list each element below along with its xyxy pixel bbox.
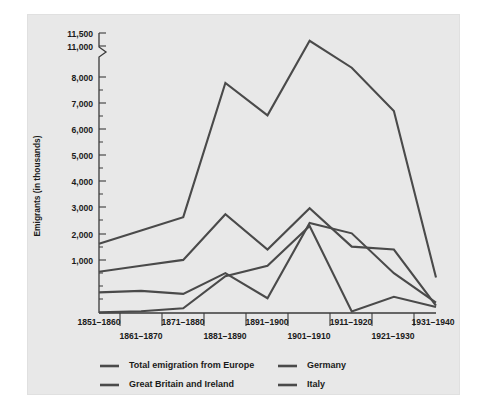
series-line-total-emigration-from-europe <box>99 41 436 278</box>
y-tick-label: 11,500 <box>67 29 93 39</box>
series-line-germany <box>99 223 436 303</box>
x-tick-label: 1851–1860 <box>77 317 120 327</box>
y-tick-label: 1,000 <box>71 256 93 266</box>
emigration-line-chart: Emigrants (in thousands) 11,500 11,000 8… <box>27 14 460 395</box>
chart-panel: Emigrants (in thousands) 11,500 11,000 8… <box>27 14 460 395</box>
y-axis-tick-labels: 11,500 11,000 8,000 7,000 6,000 5,000 4,… <box>67 29 93 266</box>
chart-legend: Total emigration from Europe Germany Gre… <box>100 360 346 389</box>
x-axis-tick-labels: 1851–1860 1861–1870 1871–1880 1881–1890 … <box>77 317 454 341</box>
y-tick-label: 11,000 <box>67 42 93 52</box>
x-tick-label: 1891–1900 <box>245 317 288 327</box>
y-tick-label: 7,000 <box>71 99 93 109</box>
legend-label-germany: Germany <box>307 360 346 370</box>
x-tick-label: 1861–1870 <box>119 331 162 341</box>
y-tick-label: 2,000 <box>71 230 93 240</box>
x-tick-label: 1901–1910 <box>287 331 330 341</box>
y-tick-label: 6,000 <box>71 125 93 135</box>
figure-container: Emigrants (in thousands) 11,500 11,000 8… <box>0 0 481 408</box>
legend-label-italy: Italy <box>307 379 325 389</box>
x-tick-label: 1931–1940 <box>411 317 454 327</box>
y-tick-label: 5,000 <box>71 151 93 161</box>
y-tick-label: 3,000 <box>71 203 93 213</box>
series-layer <box>99 41 436 313</box>
legend-label-total: Total emigration from Europe <box>129 360 254 370</box>
y-axis-major-ticks <box>99 33 106 260</box>
x-tick-label: 1921–1930 <box>371 331 414 341</box>
legend-label-gb-ireland: Great Britain and Ireland <box>129 379 234 389</box>
y-tick-label: 4,000 <box>71 177 93 187</box>
x-tick-label: 1911–1920 <box>330 317 373 327</box>
y-axis-title: Emigrants (in thousands) <box>32 135 42 236</box>
x-tick-label: 1871–1880 <box>161 317 204 327</box>
x-tick-label: 1881–1890 <box>203 331 246 341</box>
y-tick-label: 8,000 <box>71 73 93 83</box>
